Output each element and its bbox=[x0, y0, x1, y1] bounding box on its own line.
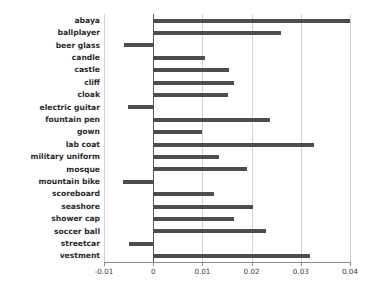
y-axis-tick-label: soccer ball bbox=[0, 227, 100, 236]
x-axis-tick-label: 0.02 bbox=[232, 267, 272, 276]
x-axis-line bbox=[104, 262, 351, 263]
bar-row bbox=[104, 250, 350, 262]
bar bbox=[153, 229, 266, 233]
y-axis-tick-label: mosque bbox=[0, 165, 100, 174]
bar-row bbox=[104, 64, 350, 76]
bar-row bbox=[104, 101, 350, 113]
y-axis-tick-label: shower cap bbox=[0, 214, 100, 223]
gridline bbox=[350, 14, 351, 262]
x-axis-tick bbox=[153, 262, 154, 266]
bar-row bbox=[104, 39, 350, 51]
bar-row bbox=[104, 175, 350, 187]
bar-row bbox=[104, 26, 350, 38]
bar-chart: abayaballplayerbeer glasscandlecastlecli… bbox=[0, 0, 374, 290]
y-axis-tick-label: castle bbox=[0, 65, 100, 74]
bar bbox=[153, 130, 202, 134]
bar-row bbox=[104, 51, 350, 63]
y-axis-labels: abayaballplayerbeer glasscandlecastlecli… bbox=[0, 14, 100, 262]
bar bbox=[153, 68, 229, 72]
bar-row bbox=[104, 200, 350, 212]
bar bbox=[153, 19, 350, 23]
x-axis-tick-label: 0 bbox=[133, 267, 173, 276]
bar-row bbox=[104, 237, 350, 249]
x-axis-tick-label: 0.04 bbox=[330, 267, 370, 276]
y-axis-tick-label: vestment bbox=[0, 251, 100, 260]
y-axis-tick-label: candle bbox=[0, 53, 100, 62]
bar-row bbox=[104, 88, 350, 100]
y-axis-tick-label: abaya bbox=[0, 16, 100, 25]
y-axis-tick-label: cloak bbox=[0, 90, 100, 99]
bar bbox=[153, 205, 252, 209]
bar bbox=[124, 43, 154, 47]
x-axis-tick bbox=[252, 262, 253, 266]
bar-row bbox=[104, 163, 350, 175]
y-axis-tick-label: electric guitar bbox=[0, 103, 100, 112]
bar-row bbox=[104, 76, 350, 88]
bar bbox=[153, 217, 234, 221]
y-axis-tick-label: military uniform bbox=[0, 152, 100, 161]
x-axis-tick-label: 0.01 bbox=[182, 267, 222, 276]
x-axis-tick-label: -0.01 bbox=[84, 267, 124, 276]
y-axis-tick-label: mountain bike bbox=[0, 177, 100, 186]
y-axis-tick-label: cliff bbox=[0, 78, 100, 87]
bar-row bbox=[104, 150, 350, 162]
bar-row bbox=[104, 212, 350, 224]
bar bbox=[128, 105, 153, 109]
y-axis-tick-label: lab coat bbox=[0, 140, 100, 149]
y-axis-tick-label: scoreboard bbox=[0, 189, 100, 198]
y-axis-tick-label: gown bbox=[0, 127, 100, 136]
bar-row bbox=[104, 138, 350, 150]
x-axis-tick bbox=[301, 262, 302, 266]
bar bbox=[129, 242, 154, 246]
bar bbox=[153, 167, 246, 171]
bar bbox=[153, 118, 270, 122]
x-axis-tick bbox=[104, 262, 105, 266]
bar bbox=[153, 155, 219, 159]
bar bbox=[123, 180, 154, 184]
bar bbox=[153, 31, 281, 35]
bar bbox=[153, 81, 234, 85]
bar-row bbox=[104, 14, 350, 26]
y-axis-tick-label: beer glass bbox=[0, 41, 100, 50]
bar bbox=[153, 254, 309, 258]
bar-row bbox=[104, 126, 350, 138]
y-axis-tick-label: seashore bbox=[0, 202, 100, 211]
y-axis-tick-label: fountain pen bbox=[0, 115, 100, 124]
bar-row bbox=[104, 225, 350, 237]
x-axis-tick bbox=[350, 262, 351, 266]
x-axis-tick bbox=[202, 262, 203, 266]
y-axis-tick-label: streetcar bbox=[0, 239, 100, 248]
bar bbox=[153, 192, 214, 196]
x-axis-tick-label: 0.03 bbox=[281, 267, 321, 276]
plot-area bbox=[104, 14, 350, 262]
bar bbox=[153, 56, 205, 60]
bar bbox=[153, 93, 228, 97]
bar bbox=[153, 143, 314, 147]
bar-row bbox=[104, 113, 350, 125]
bar-row bbox=[104, 188, 350, 200]
y-axis-tick-label: ballplayer bbox=[0, 28, 100, 37]
bars-layer bbox=[104, 14, 350, 262]
